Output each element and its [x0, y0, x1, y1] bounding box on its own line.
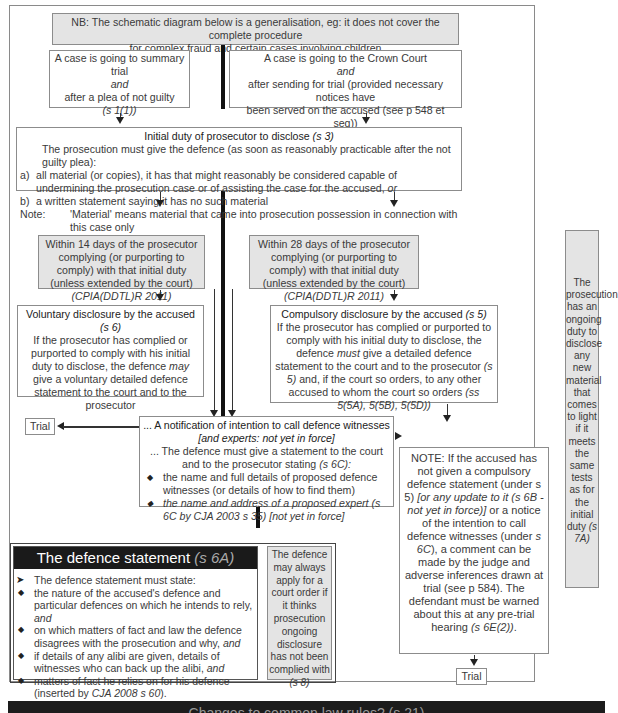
court-order-text: The defence may always apply for a court…	[269, 549, 330, 675]
spine-segment	[221, 45, 225, 109]
trial-left-box: Trial	[25, 418, 55, 435]
voluntary-title-row: Voluntary disclosure by the accused (s 6…	[22, 308, 199, 334]
trial-right-box: Trial	[456, 668, 487, 685]
witness-notice-box: ... A notification of intention to call …	[139, 416, 394, 507]
defence-statement-item: matters of fact he relies on for his def…	[14, 675, 253, 700]
arrow-down-icon	[443, 415, 451, 422]
court-order-box: The defence may always apply for a court…	[267, 546, 332, 680]
arrow-down-icon	[116, 117, 124, 124]
compulsory-title: Compulsory disclosure by the accused	[281, 308, 462, 320]
defence-statement-item: on which matters of fact and law the def…	[14, 624, 253, 649]
witness-title-italic: [and experts: not yet in force]	[198, 432, 335, 444]
voluntary-body: If the prosecutor has complied or purpor…	[22, 334, 199, 412]
within-28-days-box: Within 28 days of the prosecutor complyi…	[249, 235, 419, 289]
initial-duty-intro: The prosecution must give the defence (a…	[20, 143, 458, 169]
witness-title-row: ... A notification of intention to call …	[143, 419, 390, 445]
within-14-text: Within 14 days of the prosecutor complyi…	[46, 238, 198, 289]
voluntary-body-pre: If the prosecutor has complied or purpor…	[31, 334, 190, 372]
compulsory-body-must: must	[337, 347, 360, 359]
summary-trial-box: A case is going to summary trial and aft…	[49, 50, 190, 108]
nb-note: NB: The schematic diagram below is a gen…	[52, 13, 459, 45]
court-order-ref: (s 8)	[290, 677, 310, 688]
trial-left-label: Trial	[30, 420, 50, 432]
item-text: if details of any alibi are given, detai…	[34, 650, 220, 675]
initial-duty-note: Note: 'Material' means material that cam…	[20, 208, 458, 234]
crown-court-line2: after sending for trial (provided necess…	[234, 78, 457, 104]
compulsory-title-row: Compulsory disclosure by the accused (s …	[275, 308, 493, 321]
voluntary-ref: (s 6)	[100, 321, 121, 333]
defence-statement-item: the nature of the accused's defence and …	[14, 587, 253, 625]
voluntary-disclosure-box: Voluntary disclosure by the accused (s 6…	[17, 305, 204, 397]
witness-bullet: the name and address of a proposed exper…	[143, 497, 390, 523]
item-and: and	[207, 662, 225, 674]
trial-right-label: Trial	[461, 670, 481, 682]
summary-trial-line2: after a plea of not guilty	[54, 91, 185, 104]
connector-line	[214, 289, 215, 410]
item-a-text: all material (or copies), it has that mi…	[36, 169, 397, 194]
voluntary-title: Voluntary disclosure by the accused	[26, 308, 195, 320]
initial-duty-title-row: Initial duty of prosecutor to disclose (…	[20, 130, 458, 143]
summary-trial-line1: A case is going to summary trial	[54, 52, 185, 78]
bottom-section-title: Changes to common law rules? (s 21)	[189, 705, 425, 713]
witness-bullet: the name and full details of proposed de…	[143, 471, 390, 497]
initial-duty-ref: (s 3)	[313, 130, 334, 142]
witness-intro-ref: (s 6C):	[319, 458, 351, 470]
arrow-down-icon	[156, 200, 164, 207]
compulsory-disclosure-box: Compulsory disclosure by the accused (s …	[270, 305, 498, 403]
defence-statement-ref: (s 6A)	[194, 549, 234, 566]
compulsory-body: If the prosecutor has complied or purpor…	[275, 321, 493, 412]
summary-trial-and: and	[54, 78, 185, 91]
defence-statement-box: The defence statement (s 6A) The defence…	[13, 546, 258, 680]
item-and: and	[34, 612, 52, 624]
defence-statement-item: if details of any alibi are given, detai…	[14, 650, 253, 675]
defence-statement-title: The defence statement	[37, 549, 190, 566]
note-part4-ref: (s 6E(2))	[471, 621, 514, 633]
witness-intro-row: ... The defence must give a statement to…	[143, 445, 390, 471]
initial-duty-title: Initial duty of prosecutor to disclose	[144, 130, 309, 142]
item-a-or: or	[388, 182, 397, 194]
connector-line	[63, 426, 139, 428]
item-text: on which matters of fact and law the def…	[34, 624, 242, 649]
arrow-down-icon	[362, 117, 370, 124]
within-14-days-box: Within 14 days of the prosecutor complyi…	[38, 235, 205, 289]
arrow-down-icon	[390, 200, 398, 207]
witness-bullets: the name and full details of proposed de…	[143, 471, 390, 523]
crown-court-line1: A case is going to the Crown Court	[234, 52, 457, 65]
item-a-label: a)	[20, 169, 29, 182]
nb-note-line1: NB: The schematic diagram below is a gen…	[57, 16, 454, 42]
item-text: the nature of the accused's defence and …	[34, 587, 252, 612]
item-ref: CJA 2008 s 60	[92, 687, 161, 699]
arrow-right-icon	[395, 432, 402, 440]
compulsory-ref: (s 5)	[466, 308, 487, 320]
note-part5: .	[514, 621, 517, 633]
note-label: Note:	[20, 208, 45, 221]
arrow-down-icon	[156, 294, 164, 301]
witness-title: ... A notification of intention to call …	[143, 419, 390, 431]
ongoing-duty-box: The prosecution has an ongoing duty to d…	[565, 230, 599, 588]
initial-duty-item-a: a) all material (or copies), it has that…	[20, 169, 458, 195]
ongoing-duty-text: The prosecution has an ongoing duty to d…	[566, 277, 618, 532]
compulsory-body-post: and, if the court so orders, to any othe…	[289, 373, 482, 398]
voluntary-body-may: may	[169, 360, 189, 372]
within-28-ref: (CPIA(DDTL)R 2011)	[284, 290, 384, 302]
item-b-text: a written statement saying it has no suc…	[36, 195, 268, 207]
note-part4: ), a comment can be made by the judge an…	[405, 543, 543, 633]
arrow-down-icon	[470, 659, 478, 666]
inference-note-box: NOTE: If the accused has not given a com…	[399, 447, 549, 654]
defence-statement-list: The defence statement must state: the na…	[14, 569, 257, 700]
connector-line	[232, 289, 233, 410]
item-end: ).	[160, 687, 166, 699]
note-text: 'Material' means material that came into…	[70, 208, 457, 233]
voluntary-body-post: give a voluntary detailed defence statem…	[33, 373, 188, 411]
item-b-label: b)	[20, 195, 29, 208]
defence-statement-header: The defence statement (s 6A)	[14, 547, 257, 569]
connector-line	[394, 192, 395, 200]
initial-duty-box: Initial duty of prosecutor to disclose (…	[16, 127, 462, 191]
crown-court-box: A case is going to the Crown Court and a…	[229, 50, 462, 108]
connector-line	[160, 192, 161, 200]
bottom-section-header: Changes to common law rules? (s 21)	[8, 701, 605, 713]
within-28-text: Within 28 days of the prosecutor complyi…	[258, 238, 410, 289]
arrow-down-icon	[390, 294, 398, 301]
item-and: and	[223, 637, 241, 649]
defence-statement-lead: The defence statement must state:	[14, 574, 253, 587]
